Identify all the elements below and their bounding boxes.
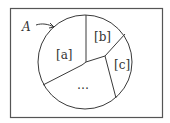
region-label-b: [b] [94, 30, 111, 44]
region-label-c: [c] [114, 58, 130, 72]
region-label-a: [a] [56, 48, 73, 62]
region-label-rest: … [77, 78, 89, 92]
set-partition-diagram: A [a] [b] [c] … [0, 0, 170, 123]
outer-label-a: A [21, 20, 31, 34]
